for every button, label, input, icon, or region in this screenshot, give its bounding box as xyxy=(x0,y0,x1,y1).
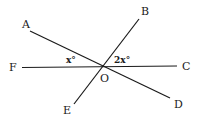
point-label-D: D xyxy=(174,98,183,111)
point-label-A: A xyxy=(21,18,31,31)
geometry-diagram: A B C D E F O x° 2x° xyxy=(0,0,198,120)
angle-label-x: x° xyxy=(66,55,76,65)
point-label-F: F xyxy=(9,61,17,74)
point-label-E: E xyxy=(63,104,71,117)
angle-label-2x: 2x° xyxy=(114,55,130,65)
line-FC xyxy=(22,66,177,68)
point-label-C: C xyxy=(182,60,190,73)
center-label-O: O xyxy=(100,72,109,85)
line-AD xyxy=(30,31,170,98)
point-label-B: B xyxy=(141,5,149,18)
